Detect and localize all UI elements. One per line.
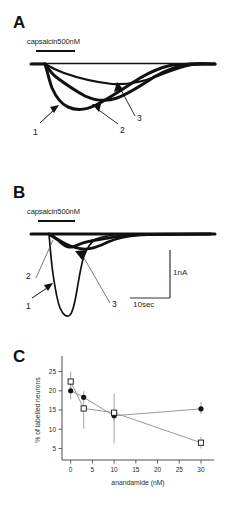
panel-b-arrow-1-head	[44, 283, 53, 291]
y-tick-label: 15	[49, 406, 57, 413]
data-point-open-square	[112, 410, 117, 415]
x-tick-label: 10	[110, 466, 118, 473]
y-axis-title: % of labelled neurons	[34, 377, 41, 443]
chart-series-lines	[71, 382, 201, 443]
y-tick-label: 5	[52, 445, 56, 452]
y-tick-label: 10	[49, 426, 57, 433]
chart-markers	[68, 379, 203, 445]
series-line-filled-circles	[71, 391, 201, 416]
data-point-filled-circle	[198, 406, 203, 411]
data-point-open-square	[198, 440, 203, 445]
x-tick-label: 30	[197, 466, 205, 473]
x-tick-label: 25	[176, 466, 184, 473]
panel-a-trace-label-1: 1	[33, 127, 38, 137]
x-axis-title: anandamide (nM)	[111, 479, 164, 487]
data-point-open-square	[81, 406, 86, 411]
panel-b-trace-3	[49, 234, 212, 249]
x-tick-label: 5	[91, 466, 95, 473]
panel-b-trace-label-1: 1	[26, 301, 31, 311]
panel-b-scale-label-time: 10sec	[133, 300, 154, 309]
x-axis-ticks: 051015202530	[69, 460, 205, 473]
panel-a: A capsaicin500nM	[0, 0, 228, 170]
panel-b-trace-label-2: 2	[26, 271, 31, 281]
y-tick-label: 25	[49, 368, 57, 375]
panel-b-leader-3	[84, 258, 110, 303]
data-point-filled-circle	[68, 388, 73, 393]
y-tick-label: 20	[49, 387, 57, 394]
panel-c: C 051015202530 510152025 anandamide (nM)…	[0, 340, 228, 520]
panel-a-trace-label-2: 2	[120, 125, 125, 135]
y-axis-ticks: 510152025	[49, 368, 62, 452]
panel-b-traces	[0, 170, 228, 340]
data-point-open-square	[68, 379, 73, 384]
panel-b: B capsaicin500nM	[0, 170, 228, 340]
anandamide-dose-response-chart: 051015202530 510152025 anandamide (nM) %…	[0, 340, 228, 520]
panel-b-scale-label-current: 1nA	[173, 268, 187, 277]
panel-a-trace-label-3: 3	[137, 113, 142, 123]
series-line-open-squares	[71, 382, 201, 443]
figure-container: A capsaicin500nM	[0, 0, 228, 520]
panel-a-traces	[0, 0, 228, 170]
x-tick-label: 15	[132, 466, 140, 473]
panel-b-trace-label-3: 3	[112, 299, 117, 309]
panel-a-trace-2	[45, 64, 215, 101]
x-tick-label: 0	[69, 466, 73, 473]
panel-a-trace-3	[45, 64, 215, 84]
data-point-filled-circle	[81, 395, 86, 400]
x-tick-label: 20	[154, 466, 162, 473]
